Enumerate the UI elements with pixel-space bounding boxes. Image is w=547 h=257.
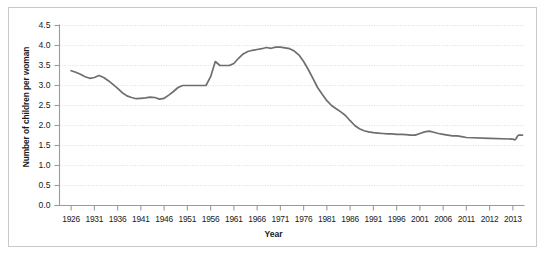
- gridlines: [60, 26, 525, 206]
- chart-figure: Number of children per woman Year 0.00.5…: [0, 0, 547, 257]
- fertility-rate-line: [71, 47, 522, 140]
- plot-area: [0, 0, 547, 257]
- y-tick-marks: [55, 26, 60, 206]
- axes: [55, 25, 525, 206]
- x-tick-marks: [71, 206, 513, 211]
